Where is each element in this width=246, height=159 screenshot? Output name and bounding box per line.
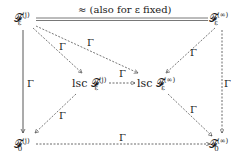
node-F-eps-inf: 𝓕(∞)ε — [209, 12, 218, 27]
label-gamma-tr-mr: Γ — [190, 48, 197, 58]
node-F-0-j: 𝓕(j)0 — [14, 138, 22, 153]
label-gamma-mr-br: Γ — [190, 105, 197, 115]
label-gamma-bottom: Γ — [119, 133, 126, 143]
label-gamma-tl-mr: Γ — [87, 38, 94, 48]
label-gamma-mid: Γ — [119, 69, 126, 79]
node-lsc-F-eps-inf: lsc 𝓕(∞)ε — [137, 77, 165, 92]
label-gamma-tl-ml: Γ — [59, 42, 66, 52]
label-gamma-ml-bl: Γ — [59, 111, 66, 121]
label-top-equiv: ≈ (also for ε fixed) — [78, 5, 172, 15]
node-F-eps-j: 𝓕(j)ε — [14, 12, 21, 27]
label-gamma-right: Γ — [224, 79, 231, 89]
label-gamma-left: Γ — [27, 79, 34, 89]
node-F-0-inf: 𝓕(∞)0 — [209, 138, 219, 153]
node-lsc-F-eps-j: lsc 𝓕(j)ε — [72, 77, 98, 92]
